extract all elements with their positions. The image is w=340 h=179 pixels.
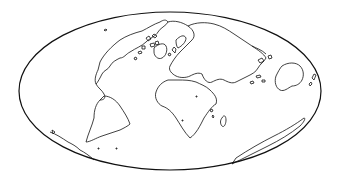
world-map	[0, 0, 340, 179]
map-frame	[19, 12, 321, 170]
